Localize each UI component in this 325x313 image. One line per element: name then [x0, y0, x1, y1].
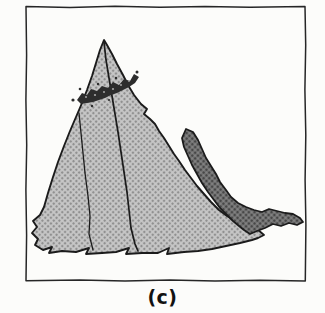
- mountain-illustration: [0, 0, 325, 313]
- figure-label: (c): [0, 286, 325, 308]
- figure-panel: (c): [0, 0, 325, 313]
